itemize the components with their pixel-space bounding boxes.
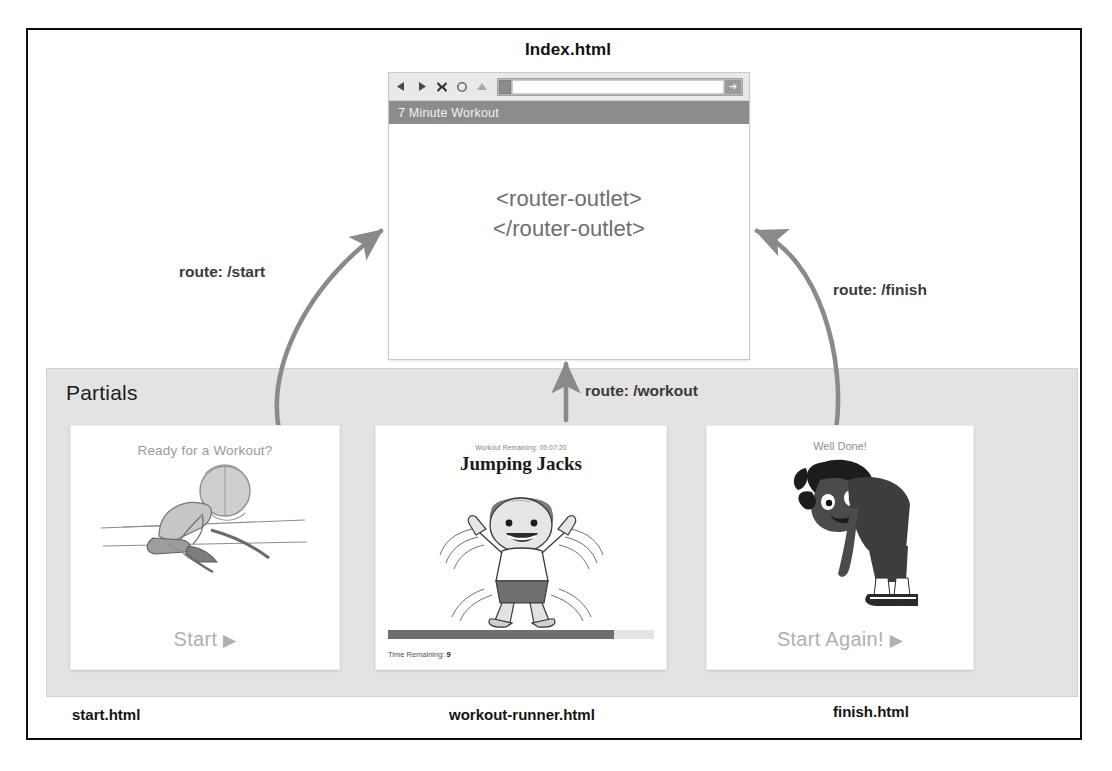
address-bar[interactable]: ➜ <box>497 78 743 96</box>
person-bending-over <box>750 454 930 614</box>
finish-card-heading: Well Done! <box>707 440 973 452</box>
workout-time-value: 9 <box>447 650 451 659</box>
forward-arrow-icon[interactable] <box>413 77 430 97</box>
play-triangle-icon: ▶ <box>223 631 236 650</box>
app-title-text: 7 Minute Workout <box>398 106 499 120</box>
route-label-workout: route: /workout <box>585 382 698 400</box>
start-partial-card: Ready for a Workout? Start ▶ <box>70 425 340 670</box>
index-browser-window: ➜ 7 Minute Workout <router-outlet> </rou… <box>388 72 750 360</box>
diagram-canvas: Index.html ➜ <box>0 0 1112 771</box>
back-arrow-icon[interactable] <box>393 77 410 97</box>
start-cta-label: Start <box>174 628 218 650</box>
file-label-start: start.html <box>72 706 140 723</box>
workout-time-label: Time Remaining: <box>388 650 444 659</box>
browser-toolbar: ➜ <box>389 73 749 101</box>
workout-time-remaining: Time Remaining: 9 <box>388 650 451 659</box>
person-tying-shoelaces-sketch <box>93 458 318 578</box>
workout-remaining-label: Workout Remaining: <box>475 444 537 451</box>
jumping-jacks-kid <box>414 477 629 629</box>
file-label-finish: finish.html <box>833 703 909 720</box>
workout-exercise-title: Jumping Jacks <box>376 453 666 475</box>
start-card-cta[interactable]: Start ▶ <box>71 628 339 651</box>
go-button[interactable]: ➜ <box>725 80 741 94</box>
app-title-bar: 7 Minute Workout <box>389 101 749 124</box>
router-outlet-open-tag: <router-outlet> <box>496 184 642 214</box>
start-card-heading: Ready for a Workout? <box>71 443 339 458</box>
finish-partial-card: Well Done! Start Again! ▶ <box>706 425 974 670</box>
address-input[interactable] <box>512 80 724 94</box>
finish-cta-label: Start Again! <box>777 628 884 650</box>
workout-progress-fill <box>388 630 614 639</box>
router-outlet-area: <router-outlet> </router-outlet> <box>389 124 749 359</box>
route-label-finish: route: /finish <box>833 281 927 299</box>
file-label-workout: workout-runner.html <box>449 706 595 723</box>
favicon-icon <box>499 80 511 94</box>
home-icon[interactable] <box>473 77 490 97</box>
route-label-start: route: /start <box>179 263 265 281</box>
index-node-title: Index.html <box>388 40 748 60</box>
router-outlet-close-tag: </router-outlet> <box>493 214 645 244</box>
partials-region-label: Partials <box>66 381 138 405</box>
reload-circle-icon[interactable] <box>453 77 470 97</box>
workout-progress-bar <box>388 630 654 639</box>
workout-remaining-row: Workout Remaining: 00:07:20 <box>376 444 666 451</box>
stop-x-icon[interactable] <box>433 77 450 97</box>
workout-partial-card: Workout Remaining: 00:07:20 Jumping Jack… <box>375 425 667 670</box>
workout-remaining-value: 00:07:20 <box>540 444 567 451</box>
play-triangle-icon: ▶ <box>890 631 903 650</box>
finish-card-cta[interactable]: Start Again! ▶ <box>707 628 973 651</box>
